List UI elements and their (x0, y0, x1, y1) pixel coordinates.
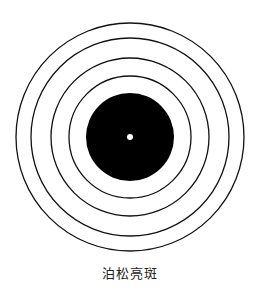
poisson-spot-diagram (0, 0, 260, 294)
bright-spot (127, 134, 133, 140)
figure-caption: 泊松亮斑 (0, 263, 260, 282)
